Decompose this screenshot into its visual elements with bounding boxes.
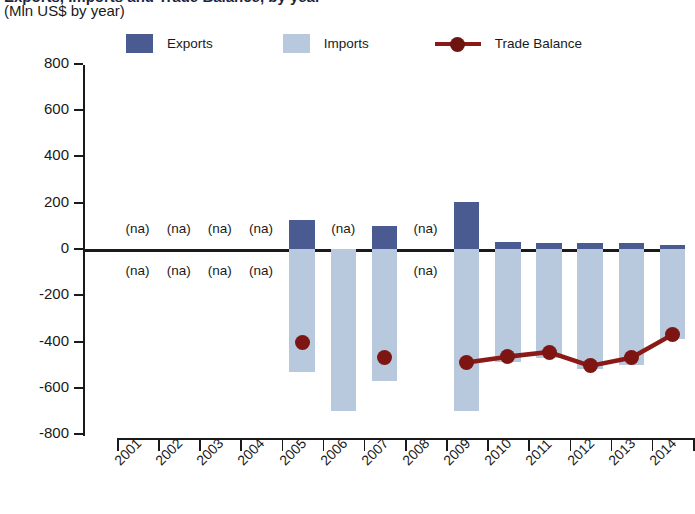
trade-balance-point[interactable] [624,350,639,365]
y-tick-label: -200 [5,285,69,302]
y-tick-label: -800 [5,424,69,441]
y-tick [74,433,83,435]
plot-area: 8006004002000-200-400-600-800 (na)(na)(n… [83,65,661,436]
x-tick-label: 2011 [522,436,555,469]
y-tick [74,341,83,343]
legend-label-imports: Imports [324,36,369,51]
y-tick [74,294,83,296]
y-tick-label: 800 [5,54,69,71]
y-tick-label: 200 [5,193,69,210]
bar-exports[interactable] [660,245,686,249]
trade-balance-point[interactable] [583,358,598,373]
chart-subtitle: (Mln US$ by year) [4,2,125,19]
legend-label-exports: Exports [167,36,213,51]
x-tick [693,438,695,451]
y-tick [74,155,83,157]
legend-item-exports[interactable]: Exports [126,34,213,53]
legend-label-trade-balance: Trade Balance [495,36,582,51]
trade-balance-point[interactable] [665,327,680,342]
legend-item-imports[interactable]: Imports [283,34,369,53]
y-tick-label: 400 [5,146,69,163]
y-tick [74,387,83,389]
y-tick-label: -400 [5,332,69,349]
y-tick-label: 600 [5,100,69,117]
bar-imports[interactable] [660,249,686,339]
exports-swatch-icon [126,34,153,53]
y-tick-label: 0 [5,239,69,256]
trade-balance-point[interactable] [295,335,310,350]
y-tick [74,63,83,65]
trade-balance-line-marker-icon [435,34,481,53]
legend-item-trade-balance[interactable]: Trade Balance [435,34,582,53]
trade-balance-point[interactable] [542,345,557,360]
y-tick [74,248,83,250]
chart-legend: Exports Imports Trade Balance [126,34,582,53]
trade-balance-polyline [467,335,673,366]
y-tick [74,109,83,111]
imports-swatch-icon [283,34,310,53]
trade-balance-line [83,65,661,436]
y-tick [74,202,83,204]
y-tick-label: -600 [5,378,69,395]
